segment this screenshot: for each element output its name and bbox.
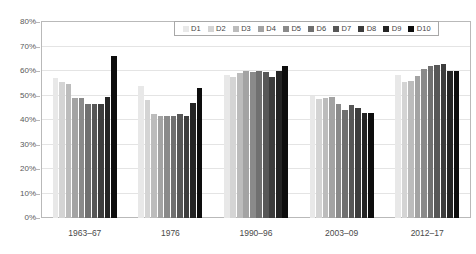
legend-item-label: D6 [316, 25, 326, 33]
bar [276, 71, 282, 218]
legend-item-label: D7 [342, 25, 352, 33]
legend-swatch-icon [283, 26, 289, 32]
y-axis-tick-mark [36, 71, 40, 72]
bar [362, 113, 368, 218]
bar [269, 77, 275, 218]
legend-swatch-icon [308, 26, 314, 32]
bar-group [213, 22, 299, 218]
legend-item-label: D10 [417, 25, 431, 33]
bar [336, 104, 342, 218]
bar [355, 108, 361, 218]
y-axis-tick-label: 30% [20, 141, 36, 149]
bar-chart: 0%10%20%30%40%50%60%70%80% 1963–67197619… [0, 0, 476, 254]
bar [237, 73, 243, 218]
y-axis-tick-mark [36, 218, 40, 219]
bar [263, 72, 269, 218]
legend-item[interactable]: D6 [308, 25, 326, 33]
bar [230, 77, 236, 218]
bar [395, 75, 401, 218]
legend-item[interactable]: D10 [408, 25, 430, 33]
y-axis-tick-label: 80% [20, 18, 36, 26]
bar [177, 114, 183, 218]
legend-item-label: D2 [216, 25, 226, 33]
bar [158, 116, 164, 218]
bar [368, 113, 374, 218]
legend-swatch-icon [233, 26, 239, 32]
bar [85, 104, 91, 218]
bar [164, 116, 170, 218]
legend-swatch-icon [383, 26, 389, 32]
bar [145, 100, 151, 218]
x-axis: 1963–6719761990–962003–092012–17 [42, 220, 470, 250]
legend-item[interactable]: D4 [258, 25, 276, 33]
legend-swatch-icon [208, 26, 214, 32]
bar [415, 76, 421, 218]
legend-item-label: D4 [266, 25, 276, 33]
legend-item-label: D5 [291, 25, 301, 33]
legend-swatch-icon [408, 26, 414, 32]
bar [197, 88, 203, 218]
bar [408, 81, 414, 218]
bar-group [128, 22, 214, 218]
x-axis-category-label: 2003–09 [299, 229, 385, 238]
legend-swatch-icon [358, 26, 364, 32]
bar [105, 97, 111, 218]
y-axis-tick-label: 50% [20, 92, 36, 100]
y-axis-tick-label: 0% [24, 214, 36, 222]
bar [190, 103, 196, 218]
y-axis-tick-mark [36, 120, 40, 121]
y-axis-tick-label: 60% [20, 67, 36, 75]
bar-group [42, 22, 128, 218]
bar [441, 64, 447, 218]
bar [224, 75, 230, 218]
bar [256, 71, 262, 218]
bar [447, 71, 453, 218]
x-axis-category-label: 1990–96 [213, 229, 299, 238]
bar [310, 96, 316, 219]
bar [171, 116, 177, 218]
x-axis-category-label: 2012–17 [384, 229, 470, 238]
y-axis-tick-mark [36, 145, 40, 146]
y-axis-tick-mark [36, 169, 40, 170]
y-axis-tick-label: 40% [20, 116, 36, 124]
bar [434, 65, 440, 218]
y-axis-tick-label: 70% [20, 43, 36, 51]
bar [184, 116, 190, 218]
y-axis: 0%10%20%30%40%50%60%70%80% [0, 0, 41, 254]
legend-item[interactable]: D3 [233, 25, 251, 33]
bar [111, 56, 117, 218]
bar [59, 82, 65, 218]
legend-item-label: D8 [367, 25, 377, 33]
y-axis-tick-mark [36, 47, 40, 48]
legend-swatch-icon [333, 26, 339, 32]
legend-item[interactable]: D8 [358, 25, 376, 33]
bar [323, 98, 329, 218]
bar [92, 104, 98, 218]
legend-item[interactable]: D2 [208, 25, 226, 33]
legend-item-label: D1 [191, 25, 201, 33]
bars-layer [42, 22, 470, 218]
bar-group [299, 22, 385, 218]
bar [428, 66, 434, 218]
bar [421, 69, 427, 218]
bar [349, 105, 355, 218]
legend-item[interactable]: D7 [333, 25, 351, 33]
bar [454, 71, 460, 218]
legend-swatch-icon [258, 26, 264, 32]
legend-item-label: D9 [392, 25, 402, 33]
bar [243, 71, 249, 218]
bar [250, 72, 256, 218]
bar [402, 82, 408, 218]
bar [66, 84, 72, 218]
x-axis-category-label: 1976 [128, 229, 214, 238]
y-axis-tick-label: 20% [20, 165, 36, 173]
legend-item[interactable]: D1 [183, 25, 201, 33]
bar-group [384, 22, 470, 218]
bar [72, 98, 78, 218]
bar [53, 78, 59, 218]
bar [316, 99, 322, 218]
legend-item[interactable]: D9 [383, 25, 401, 33]
bar [342, 110, 348, 218]
legend-item[interactable]: D5 [283, 25, 301, 33]
x-axis-category-label: 1963–67 [42, 229, 128, 238]
